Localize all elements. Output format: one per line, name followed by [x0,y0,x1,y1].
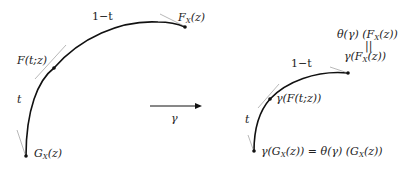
left-label-top: 1−t [92,10,113,23]
map-arrow [150,103,202,109]
map-label: γ [171,112,178,125]
left-point-start [24,154,28,158]
left-label-start: GX(z) [34,147,62,161]
diagram-canvas: 1−t t F(t;z) FX(z) GX(z) γ 1−t t γ(F(t;z… [0,0,408,172]
right-point-end [346,71,350,75]
right-tangent-start [248,135,253,149]
left-label-mid: F(t;z) [16,54,47,67]
left-point-end [183,25,187,29]
right-point-mid [268,97,272,101]
right-label-end-bottom: γ(FX(z)) [344,50,386,64]
right-label-mid: γ(F(t;z)) [276,92,321,105]
right-curve [254,73,348,151]
left-curve-group [17,14,187,158]
left-tangent-start [17,130,25,154]
right-label-side: t [245,113,250,126]
left-label-side: t [17,93,22,106]
right-label-start: γ(GX(z)) = θ(γ) (GX(z)) [261,145,383,159]
left-point-mid [52,66,56,70]
left-curve [26,22,185,156]
left-label-end: FX(z) [177,11,205,25]
right-label-top: 1−t [291,57,312,70]
right-point-start [252,149,256,153]
right-curve-group [248,67,350,153]
